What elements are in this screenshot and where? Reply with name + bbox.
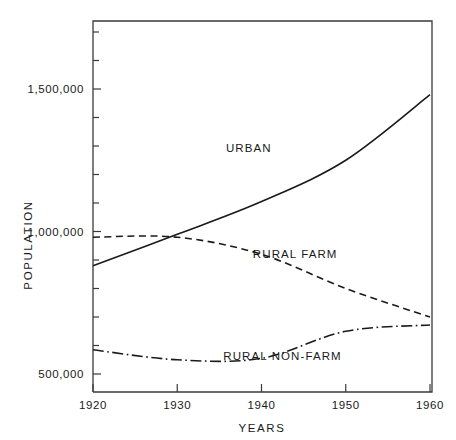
chart-canvas: 1,500,0001,000,000500,000 19201930194019… — [0, 0, 456, 440]
y-axis-tick-label: 1,000,000 — [27, 226, 84, 238]
x-axis-tick-label: 1930 — [163, 399, 191, 411]
x-axis-tick-label: 1940 — [248, 399, 276, 411]
series-label-urban: URBAN — [226, 142, 272, 154]
x-axis-title: YEARS — [239, 422, 286, 434]
y-axis-tick-label: 500,000 — [38, 368, 84, 380]
population-line-chart: 1,500,0001,000,000500,000 19201930194019… — [0, 0, 456, 440]
series-label-rural-farm: RURAL FARM — [253, 248, 338, 260]
series-label-rural-non-farm: RURAL NON-FARM — [223, 350, 341, 362]
y-axis-tick-label: 1,500,000 — [27, 83, 84, 95]
x-axis-tick-label: 1920 — [79, 399, 107, 411]
x-axis-tick-label: 1950 — [332, 399, 360, 411]
x-axis-tick-label: 1960 — [416, 399, 444, 411]
y-axis-title: POPULATION — [22, 200, 34, 289]
